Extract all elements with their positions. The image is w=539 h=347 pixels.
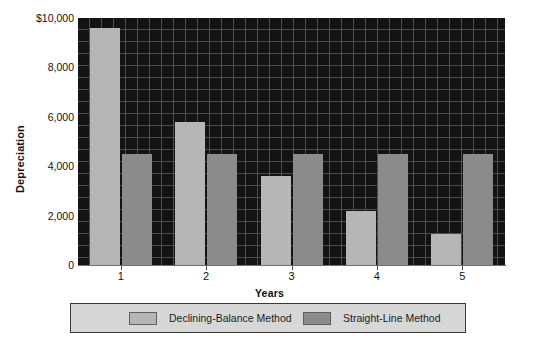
x-tick-label-year-3: 3 (272, 270, 312, 282)
bar-straight-line-year-3 (293, 154, 323, 265)
y-tick-label: 6,000 (22, 111, 74, 123)
bar-declining-balance-year-5 (431, 234, 461, 265)
y-tick-label: 8,000 (22, 61, 74, 73)
bar-declining-balance-year-4 (346, 211, 376, 265)
x-tick-label-year-4: 4 (357, 270, 397, 282)
bar-declining-balance-year-1 (90, 28, 120, 265)
bar-straight-line-year-4 (378, 154, 408, 265)
plot-area (78, 18, 505, 265)
y-tick-label: 4,000 (22, 160, 74, 172)
x-tick-label-year-5: 5 (442, 270, 482, 282)
depreciation-bar-chart: Depreciation $10,000 8,000 6,000 4,000 2… (0, 0, 539, 347)
bar-declining-balance-year-3 (261, 176, 291, 265)
x-axis-title: Years (0, 287, 539, 299)
legend-swatch-straight-line (303, 312, 331, 325)
legend-swatch-declining-balance (129, 312, 157, 325)
legend-item-straight-line: Straight-Line Method (303, 312, 440, 325)
chart-legend: Declining-Balance Method Straight-Line M… (70, 303, 466, 333)
legend-label-declining-balance: Declining-Balance Method (169, 312, 292, 324)
y-tick-label: $10,000 (22, 12, 74, 24)
bar-straight-line-year-2 (207, 154, 237, 265)
bar-declining-balance-year-2 (175, 122, 205, 265)
bar-straight-line-year-1 (122, 154, 152, 265)
y-tick-label: 2,000 (22, 210, 74, 222)
x-tick-label-year-1: 1 (101, 270, 141, 282)
y-tick-label: 0 (22, 259, 74, 271)
legend-item-declining-balance: Declining-Balance Method (129, 312, 292, 325)
legend-label-straight-line: Straight-Line Method (343, 312, 440, 324)
x-tick-label-year-2: 2 (186, 270, 226, 282)
bar-straight-line-year-5 (463, 154, 493, 265)
